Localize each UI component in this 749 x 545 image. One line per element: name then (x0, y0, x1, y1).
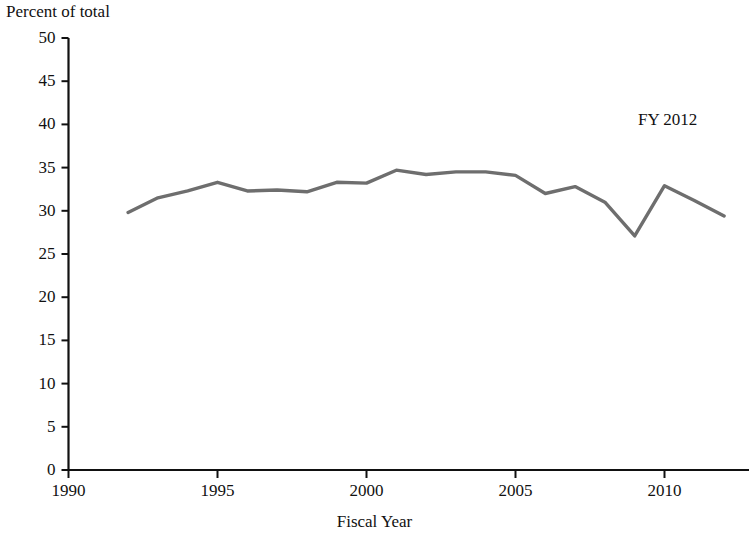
y-tick-label: 45 (10, 72, 56, 89)
x-axis-title: Fiscal Year (0, 512, 749, 532)
chart-container: Percent of total FY 2012 051015202530354… (0, 0, 749, 545)
y-tick-label: 5 (10, 418, 56, 435)
tick-marks-group (62, 38, 665, 478)
axis-lines (69, 38, 749, 470)
x-tick-label: 2005 (481, 482, 551, 499)
plot-area (0, 0, 749, 545)
y-tick-label: 30 (10, 202, 56, 219)
y-tick-label: 10 (10, 375, 56, 392)
x-tick-label: 2010 (630, 482, 700, 499)
y-tick-label: 50 (10, 29, 56, 46)
x-tick-label: 1995 (183, 482, 253, 499)
y-tick-label: 35 (10, 159, 56, 176)
y-tick-label: 15 (10, 331, 56, 348)
x-tick-label: 2000 (332, 482, 402, 499)
y-tick-label: 40 (10, 115, 56, 132)
y-tick-label: 20 (10, 288, 56, 305)
x-tick-label: 1990 (34, 482, 104, 499)
data-series-line (128, 170, 724, 236)
y-tick-label: 25 (10, 245, 56, 262)
y-tick-label: 0 (10, 461, 56, 478)
